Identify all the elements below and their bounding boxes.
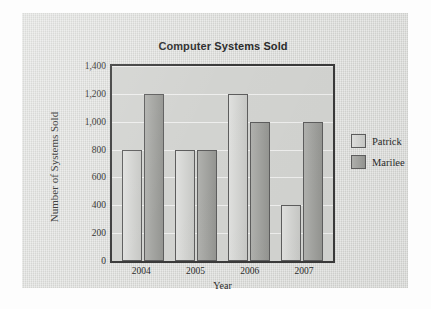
scanned-page: Computer Systems Sold Number of Systems …: [0, 0, 431, 309]
x-axis-tick: 2004: [119, 266, 163, 280]
x-axis-tick: 2006: [228, 266, 272, 280]
bar-marilee-2005: [197, 150, 217, 261]
bar-group: [228, 94, 270, 261]
bar-group: [281, 122, 323, 261]
y-axis-tick: 200: [66, 228, 106, 238]
y-axis-tick-labels: 02004006008001,0001,2001,400: [66, 57, 106, 269]
legend-label: Patrick: [372, 136, 402, 147]
bar-marilee-2004: [144, 94, 164, 261]
y-axis-tick: 600: [66, 172, 106, 182]
bar-group: [122, 94, 164, 261]
legend-item-marilee: Marilee: [351, 155, 429, 169]
bar-marilee-2006: [250, 122, 270, 261]
y-axis-tick: 1,400: [66, 61, 106, 71]
bar-group: [175, 150, 217, 261]
x-axis-tick: 2005: [173, 266, 217, 280]
y-axis-tick: 0: [66, 256, 106, 266]
bar-patrick-2006: [228, 94, 248, 261]
y-axis-tick: 400: [66, 200, 106, 210]
legend-swatch-icon: [351, 134, 366, 148]
legend-swatch-icon: [351, 155, 366, 169]
bar-patrick-2005: [175, 150, 195, 261]
y-axis-tick: 1,000: [66, 117, 106, 127]
legend-label: Marilee: [372, 157, 405, 168]
x-axis-tick-labels: 2004200520062007: [110, 266, 335, 280]
y-axis-tick: 800: [66, 145, 106, 155]
legend-item-patrick: Patrick: [351, 134, 429, 148]
plot-area: [110, 64, 335, 263]
bar-groups: [112, 66, 333, 261]
chart-card: Computer Systems Sold Number of Systems …: [22, 13, 408, 288]
y-axis-tick: 1,200: [66, 89, 106, 99]
y-axis-title: Number of Systems Sold: [48, 87, 60, 247]
chart-title: Computer Systems Sold: [110, 40, 336, 52]
x-axis-title: Year: [110, 280, 335, 291]
bar-patrick-2007: [281, 205, 301, 261]
x-axis-tick: 2007: [282, 266, 326, 280]
legend: PatrickMarilee: [351, 134, 429, 176]
bar-patrick-2004: [122, 150, 142, 261]
bar-marilee-2007: [303, 122, 323, 261]
